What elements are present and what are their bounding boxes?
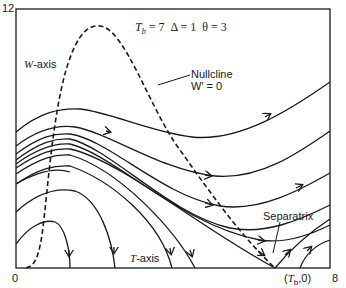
t-axis-label: T-axis xyxy=(130,252,159,264)
trajectories-right xyxy=(275,219,330,268)
x-tick-8: 8 xyxy=(332,272,338,284)
nullcline-label: Nullcline W′ = 0 xyxy=(191,68,233,92)
phase-plane-plot xyxy=(0,0,346,288)
y-tick-12: 12 xyxy=(2,2,14,14)
x-tick-0: 0 xyxy=(12,272,18,284)
separatrix-label: Separatrix xyxy=(263,210,313,222)
w-axis-label: W-axis xyxy=(24,58,56,70)
nullcline-leader xyxy=(158,75,190,85)
trajectories-lower xyxy=(16,155,195,268)
parameters-label: Tb = 7 Δ = 1 θ = 3 xyxy=(135,21,227,38)
tb-point-label: (Tb,0) xyxy=(284,272,311,288)
